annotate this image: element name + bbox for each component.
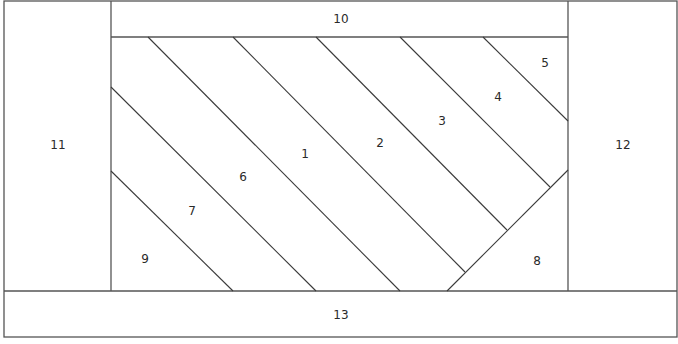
seam-4-5 <box>483 37 568 121</box>
outer-border <box>4 1 677 337</box>
piece-label-9: 9 <box>141 253 149 265</box>
piece-label-12: 12 <box>615 139 630 151</box>
seam-6-1 <box>148 37 400 291</box>
seam-1-2 <box>233 37 465 272</box>
piece-label-1: 1 <box>301 148 309 160</box>
piece-label-3: 3 <box>438 115 446 127</box>
diagram-canvas <box>0 0 678 344</box>
piece-label-4: 4 <box>494 91 502 103</box>
piece-label-6: 6 <box>239 171 247 183</box>
seam-2-3 <box>316 37 507 230</box>
piece-label-8: 8 <box>533 255 541 267</box>
piece-label-2: 2 <box>376 137 384 149</box>
seam-3-4 <box>400 37 550 187</box>
piece-label-7: 7 <box>188 205 196 217</box>
piece-label-13: 13 <box>333 309 348 321</box>
piece-label-11: 11 <box>50 139 65 151</box>
piece-label-10: 10 <box>333 13 348 25</box>
seam-9-7 <box>111 171 233 291</box>
piece-label-5: 5 <box>541 57 549 69</box>
